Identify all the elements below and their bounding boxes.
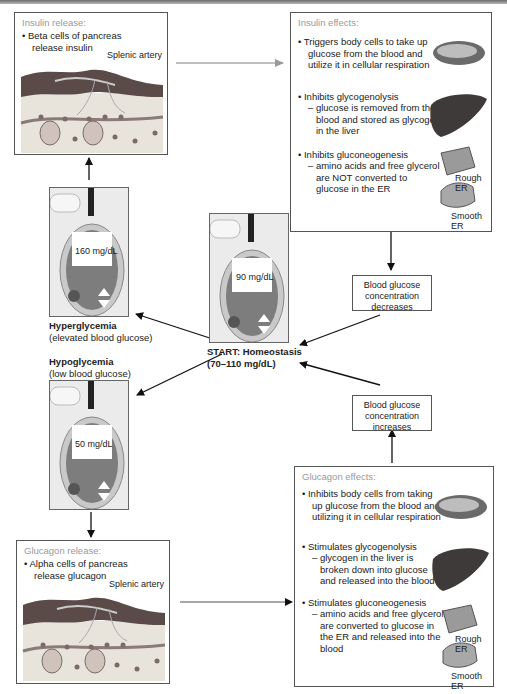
rough-er-icon-2 — [443, 605, 477, 633]
homeostasis-title: START: Homeostasis — [207, 346, 302, 357]
rough-er-label-2: Rough ER — [455, 634, 493, 654]
homeostasis-range: (70–110 mg/dL) — [207, 358, 276, 369]
meter-hyperglycemia: 160 mg/dL — [49, 187, 129, 317]
meter-reading-high: 160 mg/dL — [75, 246, 118, 256]
insulin-release-panel: Insulin release: • Beta cells of pancrea… — [14, 12, 168, 155]
smooth-er-label: Smooth ER — [451, 211, 491, 231]
meter-reading-normal: 90 mg/dL — [236, 272, 274, 282]
liver-icon-2 — [432, 548, 489, 591]
glucagon-effects-panel: Glucagon effects: • Inhibits body cells … — [294, 466, 494, 687]
meter-hypoglycemia: 50 mg/dL — [49, 380, 129, 510]
glucose-decreases-box: Blood glucose concentration decreases — [352, 275, 432, 311]
rough-er-label: Rough ER — [455, 173, 491, 193]
insulin-effects-panel: Insulin effects: • Triggers body cells t… — [290, 12, 492, 232]
meter-reading-low: 50 mg/dL — [75, 439, 113, 449]
organelle-illustrations — [291, 13, 493, 233]
organelle-illustrations-2 — [295, 467, 495, 688]
pancreas-illustration-2 — [17, 541, 171, 685]
smooth-er-label-2: Smooth ER — [451, 671, 493, 691]
hypoglycemia-title: Hypoglycemia — [49, 356, 113, 367]
pancreas-illustration — [15, 13, 169, 156]
rough-er-icon — [441, 147, 475, 175]
hyperglycemia-title: Hyperglycemia — [49, 320, 117, 331]
hyperglycemia-subtitle: (elevated blood glucose) — [49, 332, 153, 343]
glucose-increases-box: Blood glucose concentration increases — [352, 395, 432, 431]
liver-icon — [430, 94, 487, 137]
hypoglycemia-subtitle: (low blood glucose) — [49, 368, 131, 379]
glucagon-release-panel: Glucagon release: • Alpha cells of pancr… — [16, 540, 170, 684]
meter-homeostasis: 90 mg/dL — [209, 213, 289, 343]
